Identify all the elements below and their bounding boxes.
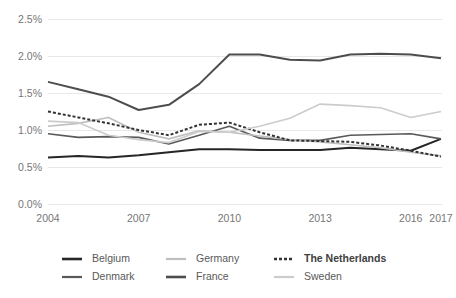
legend-item-denmark[interactable]: Denmark bbox=[62, 270, 135, 282]
x-axis-tick-label: 2013 bbox=[308, 212, 332, 224]
legend-label: Belgium bbox=[92, 252, 130, 264]
y-axis-tick-label: 2.5% bbox=[18, 13, 42, 25]
legend-item-germany[interactable]: Germany bbox=[166, 252, 240, 264]
legend-label: The Netherlands bbox=[304, 252, 386, 264]
legend-item-belgium[interactable]: Belgium bbox=[62, 252, 130, 264]
y-axis-tick-label: 2.0% bbox=[18, 50, 42, 62]
gridlines bbox=[48, 20, 442, 205]
legend-label: Sweden bbox=[304, 270, 342, 282]
x-axis-tick-label: 2016 bbox=[399, 212, 423, 224]
y-axis-tick-label: 1.5% bbox=[18, 87, 42, 99]
y-axis-tick-label: 0.0% bbox=[18, 198, 42, 210]
x-axis-tick-label: 2017 bbox=[429, 212, 453, 224]
y-axis-tick-labels: 0.0%0.5%1.0%1.5%2.0%2.5% bbox=[18, 13, 42, 210]
legend-item-france[interactable]: France bbox=[166, 270, 229, 282]
series-line-france bbox=[48, 54, 441, 110]
chart-svg: 0.0%0.5%1.0%1.5%2.0%2.5% 200420072010201… bbox=[0, 0, 456, 298]
legend-item-the-netherlands[interactable]: The Netherlands bbox=[274, 252, 386, 264]
legend-label: Denmark bbox=[92, 270, 135, 282]
legend-item-sweden[interactable]: Sweden bbox=[274, 270, 342, 282]
y-axis-tick-label: 1.0% bbox=[18, 124, 42, 136]
line-chart: 0.0%0.5%1.0%1.5%2.0%2.5% 200420072010201… bbox=[0, 0, 456, 298]
x-axis-tick-label: 2010 bbox=[218, 212, 242, 224]
y-axis-tick-label: 0.5% bbox=[18, 161, 42, 173]
x-axis-tick-labels: 200420072010201320162017 bbox=[36, 212, 453, 224]
x-axis-tick-label: 2007 bbox=[127, 212, 151, 224]
x-axis-tick-label: 2004 bbox=[36, 212, 60, 224]
data-series-group bbox=[48, 54, 441, 158]
chart-legend: BelgiumGermanyThe NetherlandsDenmarkFran… bbox=[62, 252, 386, 282]
legend-label: France bbox=[196, 270, 229, 282]
legend-label: Germany bbox=[196, 252, 240, 264]
